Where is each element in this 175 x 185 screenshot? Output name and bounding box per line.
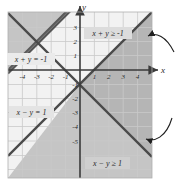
graph-canvas: -4 -3 -2 -1 1 2 3 4 3 2 1 -1 -2 -3 -4 -5… [0, 0, 175, 185]
y-tick-label: 1 [74, 52, 78, 60]
x-tick-label: -1 [63, 73, 69, 81]
inequality-graph-figure: -4 -3 -2 -1 1 2 3 4 3 2 1 -1 -2 -3 -4 -5… [0, 0, 175, 185]
y-tick-label: -2 [72, 95, 78, 103]
equation-label-text: x + y = -1 [14, 55, 48, 64]
x-axis-label: x [160, 65, 165, 75]
label-inequality-upper: x + y ≥ -1 [84, 27, 132, 39]
x-tick-label: 3 [120, 73, 125, 81]
y-tick-label: -1 [72, 81, 78, 89]
y-tick-label: -4 [72, 123, 78, 131]
x-tick-label: 1 [93, 73, 97, 81]
label-inequality-lower: x − y ≥ 1 [85, 157, 130, 169]
x-tick-label: 4 [136, 73, 140, 81]
x-tick-label: 2 [107, 73, 111, 81]
equation-label-text: x − y = 1 [16, 108, 47, 117]
y-tick-label: -3 [72, 109, 78, 117]
inequality-label-text: x + y ≥ -1 [91, 29, 124, 38]
x-tick-label: -3 [34, 73, 40, 81]
x-tick-label: -4 [19, 73, 25, 81]
label-x-plus-y-equation: x + y = -1 [7, 53, 55, 65]
y-tick-label: 2 [74, 38, 78, 46]
inequality-label-text: x − y ≥ 1 [92, 159, 122, 168]
y-tick-label: -5 [72, 138, 78, 146]
x-tick-label: -2 [48, 73, 54, 81]
y-axis-label: y [81, 2, 86, 12]
label-x-minus-y-equation: x − y = 1 [9, 106, 54, 118]
y-tick-label: 3 [73, 24, 78, 32]
